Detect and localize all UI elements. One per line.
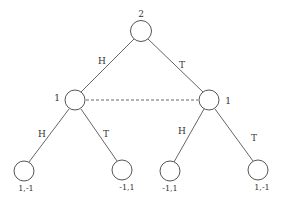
right-decision-node — [199, 90, 219, 110]
leaf-node-4 — [248, 160, 268, 180]
root-player-label: 2 — [138, 9, 144, 19]
game-tree-diagram: 2 1 1 H T H T H T 1,-1 -1,1 -1,1 1,-1 — [0, 0, 282, 203]
edge-left-leaf2 — [81, 109, 117, 161]
edge-label-root-left: H — [98, 56, 106, 66]
leaf-node-2 — [112, 160, 132, 180]
edge-right-leaf4 — [215, 109, 253, 161]
right-player-label: 1 — [225, 96, 231, 106]
root-node — [131, 21, 152, 42]
leaf-node-3 — [160, 161, 180, 181]
leaf-2-payoff: -1,1 — [119, 183, 134, 192]
edge-left-leaf1 — [29, 109, 69, 162]
edge-label-left-leaf1: H — [38, 129, 46, 139]
leaf-3-payoff: -1,1 — [162, 184, 177, 193]
edge-label-right-leaf4: T — [251, 133, 257, 143]
edge-label-root-right: T — [179, 60, 185, 70]
leaf-node-1 — [14, 161, 34, 181]
left-player-label: 1 — [54, 93, 60, 103]
edge-root-left — [81, 39, 134, 92]
leaf-1-payoff: 1,-1 — [18, 184, 33, 193]
edge-root-right — [148, 39, 203, 92]
edge-label-right-leaf3: H — [178, 126, 186, 136]
left-decision-node — [65, 90, 85, 110]
leaf-4-payoff: 1,-1 — [254, 183, 269, 192]
edge-label-left-leaf2: T — [103, 129, 109, 139]
